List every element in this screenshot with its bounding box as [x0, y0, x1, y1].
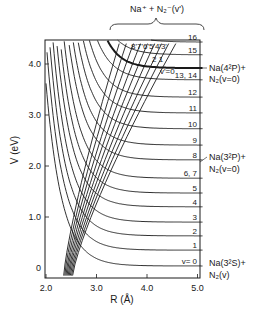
level-label: 10: [188, 120, 197, 129]
x-tick-label: 5.0: [191, 283, 204, 293]
top-brace-label: Na⁺ + N₂⁻(v'): [130, 4, 184, 14]
ionic-top-labels: 8'7'6'5'4'3': [131, 42, 167, 51]
level-label: 9: [193, 136, 198, 145]
level-label: 5: [193, 184, 198, 193]
na3p-sublabel: N₂(v=0): [209, 164, 240, 174]
na4p-sublabel: N₂(v=0): [209, 74, 240, 84]
x-axis-label: R (Å): [110, 293, 133, 305]
x-tick-label: 4.0: [141, 283, 154, 293]
level-label: 11: [189, 104, 198, 113]
y-tick-label: 0: [36, 263, 41, 273]
covalent-curve: [78, 43, 202, 129]
x-tick-label: 3.0: [90, 283, 103, 293]
level-label: 12: [188, 88, 197, 97]
y-tick-label: 3.0: [28, 110, 41, 120]
level-label: v= 0: [182, 257, 198, 266]
level-label: 13, 14: [175, 71, 198, 80]
covalent-curve: [53, 42, 202, 222]
level-label: 4: [193, 198, 198, 207]
y-tick-label: 4.0: [28, 59, 41, 69]
top-brace: [110, 18, 204, 30]
na3s-sublabel: N₂(v): [209, 270, 230, 280]
level-label: 1: [193, 241, 198, 250]
na3s-label: Na(3²S)+: [209, 258, 246, 268]
level-label: 16: [188, 33, 197, 42]
potential-energy-chart: 2.03.04.05.001.02.03.04.0 v= 0123456, 78…: [0, 0, 265, 322]
level-label: 6, 7: [184, 169, 198, 178]
y-axis-label: V (eV): [9, 136, 20, 164]
level-label: 15: [188, 46, 197, 55]
level-label: 3: [193, 213, 198, 222]
ionic-curve: [67, 44, 140, 276]
y-tick-label: 1.0: [28, 212, 41, 222]
na4p-label: Na(4²P)+: [209, 63, 246, 73]
ionic-v0-label: v'=0: [160, 67, 175, 76]
level-label: 8: [193, 151, 198, 160]
y-tick-label: 2.0: [28, 161, 41, 171]
level-label: 2: [193, 227, 198, 236]
na3p-label: Na(3²P)+: [209, 152, 246, 162]
ionic-2-1-labels: 2 1: [152, 55, 164, 64]
x-tick-label: 2.0: [40, 283, 53, 293]
